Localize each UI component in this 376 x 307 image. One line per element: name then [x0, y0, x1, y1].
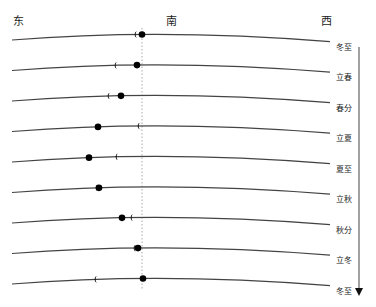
solar-term-label: 立冬	[336, 254, 352, 265]
day-path-arc	[12, 126, 330, 133]
sun-icon	[139, 31, 146, 38]
sun-icon	[96, 185, 103, 192]
day-path-arc	[12, 217, 330, 224]
time-arrow-head-icon	[355, 288, 363, 296]
day-path-arc	[12, 65, 330, 72]
sun-moon-path-diagram	[0, 0, 376, 307]
solar-term-label: 夏至	[336, 163, 352, 174]
day-path-arc	[12, 156, 330, 163]
solar-term-label: 立秋	[336, 193, 352, 204]
sun-icon	[119, 215, 126, 222]
sun-icon	[86, 154, 93, 161]
day-path-arc	[12, 95, 330, 102]
sun-icon	[135, 245, 142, 252]
solar-term-label: 秋分	[336, 224, 352, 235]
sun-icon	[118, 93, 125, 100]
day-path-arc	[12, 278, 330, 285]
solar-term-label: 立春	[336, 71, 352, 82]
solar-term-label: 立夏	[336, 132, 352, 143]
solar-term-label: 冬至	[336, 41, 352, 52]
day-path-arc	[12, 248, 330, 255]
sun-icon	[95, 124, 102, 131]
sun-icon	[140, 275, 147, 282]
solar-term-label: 春分	[336, 102, 352, 113]
day-path-arc	[12, 187, 330, 194]
solar-term-label: 冬至	[336, 285, 352, 296]
day-path-arc	[12, 34, 330, 41]
sun-icon	[134, 62, 141, 69]
